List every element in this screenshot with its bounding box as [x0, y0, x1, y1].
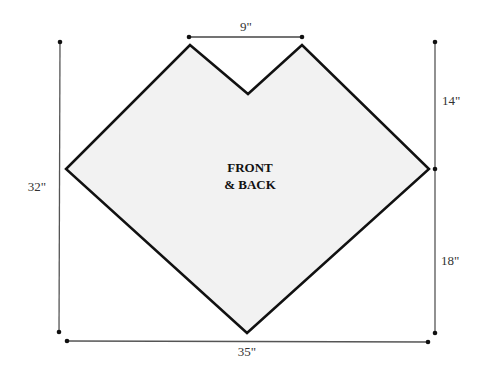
dimension-right-heights: 14" 18": [433, 40, 461, 336]
dimension-total-height: 32": [28, 40, 62, 335]
label-lower-right-height: 18": [441, 253, 459, 268]
label-upper-right-height: 14": [442, 93, 460, 108]
label-total-width: 35": [238, 344, 256, 359]
label-total-height: 32": [28, 179, 46, 194]
dimension-total-width: 35": [65, 339, 431, 359]
diagram-canvas: 9" 32" 14" 18" 35" FRONT & BAC: [0, 0, 486, 375]
pattern-diagram: 9" 32" 14" 18" 35" FRONT & BAC: [0, 0, 486, 375]
piece-label-line1: FRONT: [227, 160, 273, 175]
label-top-notch-width: 9": [240, 19, 252, 34]
dimension-top-notch-width: 9": [187, 19, 305, 39]
piece-label-line2: & BACK: [224, 177, 277, 192]
